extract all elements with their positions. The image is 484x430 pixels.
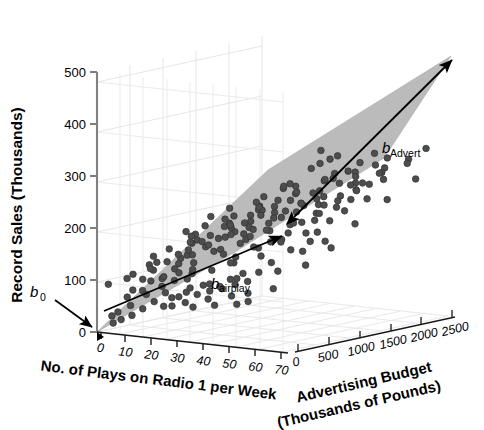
data-point xyxy=(316,210,323,217)
data-point xyxy=(226,205,233,212)
data-point xyxy=(110,320,117,327)
data-point xyxy=(404,160,411,167)
data-point xyxy=(234,301,241,308)
data-point xyxy=(270,285,277,292)
regression-plane-figure: 0 100 200 300 400 500 Record Sales (Thou… xyxy=(0,0,484,430)
data-point xyxy=(307,238,314,245)
data-point xyxy=(205,296,212,303)
data-point xyxy=(139,306,146,313)
data-point xyxy=(352,173,359,180)
data-point xyxy=(322,176,329,183)
plays-tick-50: 50 xyxy=(222,356,238,372)
data-point xyxy=(240,270,247,277)
data-point xyxy=(211,302,218,309)
data-point xyxy=(328,245,335,252)
data-point xyxy=(275,197,282,204)
data-point xyxy=(341,208,348,215)
data-point xyxy=(285,230,292,237)
data-point xyxy=(130,271,137,278)
data-point xyxy=(384,196,391,203)
data-point xyxy=(234,275,241,282)
annotation-b-airplay-subscript: airplay xyxy=(219,282,251,294)
sales-tick-0: 0 xyxy=(79,325,86,340)
data-point xyxy=(154,259,161,266)
plays-tick-60: 60 xyxy=(248,359,264,375)
data-point xyxy=(227,260,234,267)
data-point xyxy=(271,203,278,210)
data-point xyxy=(253,199,260,206)
data-point xyxy=(237,240,244,247)
data-point xyxy=(124,275,131,282)
data-point xyxy=(290,220,297,227)
data-point xyxy=(183,228,190,235)
data-point xyxy=(109,313,116,320)
data-point xyxy=(241,220,248,227)
data-point xyxy=(423,145,430,152)
data-point xyxy=(263,227,270,234)
data-point xyxy=(412,176,419,183)
data-point xyxy=(188,233,195,240)
data-point xyxy=(215,235,222,242)
data-point xyxy=(359,180,366,187)
data-point xyxy=(334,153,341,160)
data-point xyxy=(317,160,324,167)
data-point xyxy=(228,231,235,238)
data-point xyxy=(160,273,167,280)
data-point xyxy=(255,269,262,276)
sales-tick-400: 400 xyxy=(64,117,86,132)
sales-axis-label: Record Sales (Thousands) xyxy=(8,107,25,303)
data-point xyxy=(115,309,122,316)
plays-tick-40: 40 xyxy=(196,353,212,369)
annotation-b-advert-subscript: Advert xyxy=(390,147,420,159)
data-point xyxy=(162,290,169,297)
data-point xyxy=(245,298,252,305)
data-point xyxy=(241,231,248,238)
data-point xyxy=(335,197,342,204)
data-point xyxy=(105,281,112,288)
data-point xyxy=(345,168,352,175)
sales-tick-300: 300 xyxy=(64,169,86,184)
data-point xyxy=(311,217,318,224)
data-point xyxy=(270,215,277,222)
data-point xyxy=(353,187,360,194)
data-point xyxy=(303,230,310,237)
data-point xyxy=(287,247,294,254)
data-point xyxy=(357,159,364,166)
scatter-3d-plot: 0 100 200 300 400 500 Record Sales (Thou… xyxy=(0,0,484,430)
plays-tick-30: 30 xyxy=(170,350,186,366)
sales-tick-100: 100 xyxy=(64,273,86,288)
data-point xyxy=(127,302,134,309)
data-point xyxy=(187,239,194,246)
data-point xyxy=(160,303,167,310)
data-point xyxy=(321,202,328,209)
data-point xyxy=(302,262,309,269)
data-point xyxy=(314,229,321,236)
data-point xyxy=(200,282,207,289)
plays-tick-10: 10 xyxy=(118,344,134,360)
sales-tick-200: 200 xyxy=(64,221,86,236)
data-point xyxy=(247,218,254,225)
data-point xyxy=(320,193,327,200)
data-point xyxy=(318,147,325,154)
data-point xyxy=(169,294,176,301)
data-point xyxy=(250,226,257,233)
data-point xyxy=(118,316,125,323)
data-point xyxy=(202,222,209,229)
data-point xyxy=(209,267,216,274)
data-point xyxy=(326,218,333,225)
data-point xyxy=(287,180,294,187)
data-point xyxy=(207,232,214,239)
data-point xyxy=(148,278,155,285)
data-point xyxy=(322,238,329,245)
data-point xyxy=(150,253,157,260)
data-point xyxy=(364,196,371,203)
data-point xyxy=(308,165,315,172)
data-point xyxy=(282,208,289,215)
data-point xyxy=(166,246,173,253)
data-point xyxy=(380,176,387,183)
data-point xyxy=(268,259,275,266)
data-point xyxy=(208,213,215,220)
data-point xyxy=(190,259,197,266)
data-point xyxy=(139,276,146,283)
plays-tick-20: 20 xyxy=(143,347,160,363)
